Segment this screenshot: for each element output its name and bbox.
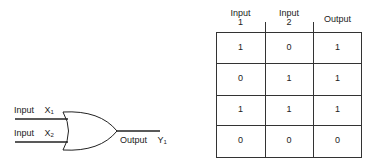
header-input-2: Input 2 [265,9,313,27]
output-var: Y1 [158,135,167,145]
y1-sub: 1 [164,139,167,145]
output-label: Output Y1 [120,135,167,147]
input-2-label: Input X2 [14,128,54,140]
cell-r3-output: 1 [313,104,362,114]
cell-r1-input1: 1 [216,42,265,52]
input-2-text: Input [14,128,34,138]
cell-r1-output: 1 [313,42,362,52]
cell-r4-input2: 0 [265,135,313,145]
cell-r3-input2: 1 [265,104,313,114]
header-output-line1: Output [313,15,362,24]
cell-r2-input2: 1 [265,73,313,83]
cell-r2-input1: 0 [216,73,265,83]
header-input-1-line2: 1 [216,18,265,27]
header-output: Output [313,15,362,24]
x2-sub: 2 [51,132,54,138]
input-2-var: X2 [45,128,54,138]
cell-r4-input1: 0 [216,135,265,145]
input-1-label: Input X1 [14,105,54,117]
x1-sub: 1 [51,109,54,115]
cell-r1-input2: 0 [265,42,313,52]
cell-r3-input1: 1 [216,104,265,114]
output-text: Output [120,135,147,145]
cell-r2-output: 1 [313,73,362,83]
input-1-text: Input [14,105,34,115]
input-1-var: X1 [45,105,54,115]
header-input-2-line2: 2 [265,18,313,27]
header-input-1: Input 1 [216,9,265,27]
cell-r4-output: 0 [313,135,362,145]
